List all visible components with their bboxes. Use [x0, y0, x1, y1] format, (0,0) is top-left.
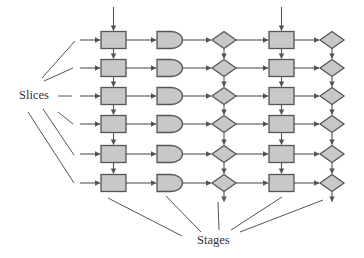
register-box: [101, 146, 126, 163]
register-box: [101, 60, 126, 77]
decision-diamond: [320, 88, 344, 105]
stages-leader-2: [166, 196, 201, 232]
slices-label: Slices: [19, 88, 49, 103]
decision-diamond: [212, 32, 236, 49]
decision-diamond: [212, 116, 236, 133]
slices-leader-2: [44, 68, 73, 81]
pipeline-nodes: [101, 32, 344, 192]
register-box: [101, 175, 126, 192]
decision-diamond: [212, 146, 236, 163]
register-box: [269, 88, 294, 105]
slices-leader-4: [58, 112, 73, 124]
and-gate: [157, 175, 183, 192]
register-box: [269, 60, 294, 77]
pipeline-diagram: [0, 0, 364, 258]
register-box: [101, 88, 126, 105]
stages-leader-1: [108, 198, 182, 236]
stages-label: Stages: [197, 233, 230, 248]
register-box: [101, 116, 126, 133]
decision-diamond: [320, 146, 344, 163]
slices-leader-1: [42, 41, 75, 78]
slices-leader-6: [28, 112, 74, 183]
and-gate: [157, 116, 183, 133]
slices-leader-5: [43, 109, 74, 155]
decision-diamond: [320, 175, 344, 192]
decision-diamond: [320, 60, 344, 77]
decision-diamond: [212, 60, 236, 77]
stages-leader-3: [218, 202, 219, 230]
and-gate: [157, 60, 183, 77]
and-gate: [157, 146, 183, 163]
decision-diamond: [320, 116, 344, 133]
and-gate: [157, 32, 183, 49]
register-box: [269, 32, 294, 49]
decision-diamond: [320, 32, 344, 49]
stages-leader-4: [231, 197, 282, 230]
register-box: [269, 146, 294, 163]
register-box: [101, 32, 126, 49]
decision-diamond: [212, 88, 236, 105]
and-gate: [157, 88, 183, 105]
decision-diamond: [212, 175, 236, 192]
register-box: [269, 175, 294, 192]
register-box: [269, 116, 294, 133]
